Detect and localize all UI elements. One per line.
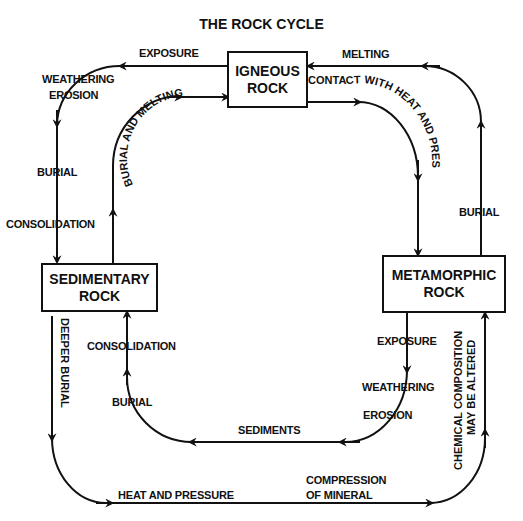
label-weathering-top: WEATHERING [42, 73, 114, 86]
label-compression-2: OF MINERAL [306, 489, 372, 502]
sedimentary-label-2: ROCK [79, 288, 120, 304]
label-sediments: SEDIMENTS [238, 424, 300, 437]
label-burial-left: BURIAL [37, 166, 77, 179]
label-deeper-burial: DEEPER BURIAL [58, 318, 71, 408]
label-chemical-line2: MAY BE ALTERED [465, 340, 478, 461]
igneous-label-1: IGNEOUS [235, 63, 300, 79]
label-heat-and-pressure: HEAT AND PRESSURE [118, 489, 234, 502]
label-chemical-composition: CHEMICAL COMPOSITIONMAY BE ALTERED [452, 331, 478, 470]
label-erosion-meta: EROSION [363, 409, 412, 422]
metamorphic-label-2: ROCK [423, 284, 464, 300]
label-erosion-top: EROSION [49, 89, 98, 102]
label-consolidation-inner: CONSOLIDATION [87, 340, 176, 353]
label-exposure-top: EXPOSURE [139, 47, 199, 60]
label-melting: MELTING [342, 48, 389, 61]
label-burial-right: BURIAL [459, 206, 499, 219]
igneous-rock-box: IGNEOUSROCK [227, 51, 308, 108]
label-chemical-line1: CHEMICAL COMPOSITION [452, 331, 464, 470]
label-compression-1: COMPRESSION [306, 474, 386, 487]
sedimentary-label-1: SEDIMENTARY [49, 271, 149, 287]
label-exposure-meta: EXPOSURE [377, 335, 437, 348]
metamorphic-label-1: METAMORPHIC [392, 267, 497, 283]
igneous-label-2: ROCK [247, 80, 288, 96]
label-consolidation-left: CONSOLIDATION [6, 218, 95, 231]
metamorphic-rock-box: METAMORPHICROCK [382, 255, 506, 313]
label-burial-inner: BURIAL [112, 396, 152, 409]
sedimentary-rock-box: SEDIMENTARYROCK [41, 263, 158, 312]
label-weathering-meta: WEATHERING [362, 381, 434, 394]
